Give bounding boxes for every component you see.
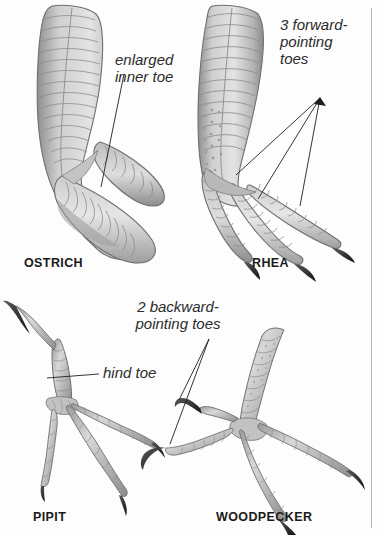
annotation-ostrich-inner-toe: enlarged inner toe — [115, 52, 173, 86]
leader-woodpecker-1 — [179, 339, 209, 400]
pipit-foot-art — [3, 301, 165, 516]
leader-woodpecker-2 — [170, 339, 209, 444]
annotation-woodpecker-backward-toes: 2 backward- pointing toes — [112, 299, 244, 333]
bird-foot-diagram: enlarged inner toe 3 forward- pointing t… — [0, 0, 383, 535]
caption-ostrich: OSTRICH — [24, 256, 83, 270]
caption-rhea: RHEA — [252, 256, 289, 270]
annotation-pipit-hind-toe: hind toe — [103, 365, 156, 382]
right-vertical-rule — [371, 8, 372, 528]
annotation-rhea-forward-toes: 3 forward- pointing toes — [280, 17, 348, 67]
caption-woodpecker: WOODPECKER — [216, 510, 312, 524]
caption-pipit: PIPIT — [33, 510, 66, 524]
ostrich-foot-art — [37, 5, 164, 263]
